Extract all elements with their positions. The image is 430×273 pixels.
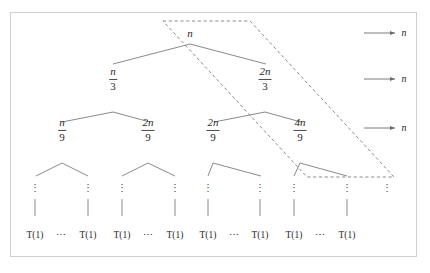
vertical-dots: ⋮ [382, 183, 392, 193]
vertical-dots: ⋮ [289, 183, 299, 193]
arrow-head-level-2 [390, 126, 395, 130]
node-level1-left: n 3 [109, 66, 117, 92]
edge-root-right [190, 44, 266, 64]
leaf-ellipsis: ⋯ [315, 231, 326, 241]
edge-l2b-left [122, 163, 148, 176]
leaf-ellipsis: ⋯ [229, 231, 240, 241]
recursion-tree-figure: n n 3 2n 3 n 9 2n 9 2n 9 4n 9 ⋮ ⋮ ⋮ ⋮ ⋮ … [0, 0, 430, 273]
edge-l2c-left [208, 163, 213, 176]
leaf-ellipsis: ⋯ [56, 231, 67, 241]
node-level2-c: 2n 9 [207, 117, 220, 143]
edge-l2d-left [294, 163, 300, 176]
edges-level-1-to-2 [62, 112, 301, 122]
leaf-node: T(1) [167, 231, 184, 241]
node-root: n [187, 28, 193, 39]
level-cost-label-0: n [402, 28, 407, 38]
leaf-node: T(1) [80, 231, 97, 241]
vertical-dots: ⋮ [255, 183, 265, 193]
arrow-head-level-0 [390, 31, 395, 35]
level-cost-arrows [364, 31, 395, 130]
vertical-dots: ⋮ [342, 183, 352, 193]
vertical-dots: ⋮ [170, 183, 180, 193]
edge-l2a-right [62, 163, 88, 176]
leaf-node: T(1) [339, 231, 356, 241]
edge-root-left [113, 44, 190, 64]
vertical-dots: ⋮ [117, 183, 127, 193]
leaf-node: T(1) [286, 231, 303, 241]
edge-l2b-right [148, 163, 175, 176]
edges-level-0-to-1 [113, 44, 266, 64]
vertical-dots: ⋮ [83, 183, 93, 193]
edge-l2c-right [213, 163, 261, 176]
edge-l1a-left [62, 112, 113, 122]
leaf-node: T(1) [252, 231, 269, 241]
edge-l1b-left [214, 112, 265, 122]
highlight-parallelogram [163, 21, 394, 177]
leaf-node: T(1) [27, 231, 44, 241]
vertical-dots: ⋮ [203, 183, 213, 193]
leaf-stems [35, 199, 347, 216]
leaf-ellipsis: ⋯ [143, 231, 154, 241]
arrow-head-level-1 [390, 77, 395, 81]
level-cost-label-1: n [402, 74, 407, 84]
level-cost-label-2: n [402, 123, 407, 133]
edge-l2d-right [300, 163, 347, 176]
edge-l2a-left [36, 163, 62, 176]
leaf-node: T(1) [114, 231, 131, 241]
node-level2-d: 4n 9 [294, 117, 307, 143]
leaf-node: T(1) [200, 231, 217, 241]
vertical-dots: ⋮ [30, 183, 40, 193]
node-level2-b: 2n 9 [142, 117, 155, 143]
node-level1-right: 2n 3 [259, 66, 272, 92]
node-level2-a: n 9 [58, 117, 66, 143]
